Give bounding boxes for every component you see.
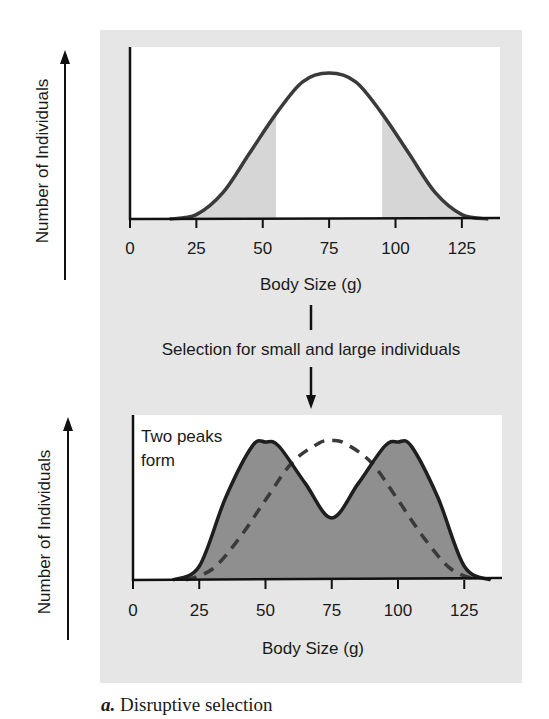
figure-caption: a. Disruptive selection: [101, 694, 273, 715]
x-tick-label: 25: [190, 601, 209, 620]
top-y-axis-indicator: Number of Individuals: [33, 50, 70, 280]
x-tick-label: 25: [187, 239, 206, 258]
x-tick-label: 125: [450, 601, 478, 620]
disruptive-selection-figure: 0255075100125 Body Size (g) Number of In…: [0, 0, 549, 719]
x-tick-label: 75: [320, 239, 339, 258]
x-tick-label: 100: [381, 239, 409, 258]
x-tick-label: 0: [128, 601, 137, 620]
x-tick-label: 125: [448, 239, 476, 258]
top-y-axis-label: Number of Individuals: [33, 79, 52, 243]
x-tick-label: 100: [384, 601, 412, 620]
x-tick-label: 50: [256, 601, 275, 620]
top-y-arrow-head-icon: [60, 50, 70, 64]
bottom-x-axis-label: Body Size (g): [262, 639, 364, 658]
top-x-axis: [129, 218, 500, 219]
x-tick-label: 0: [125, 239, 134, 258]
bottom-y-axis-label: Number of Individuals: [35, 450, 54, 614]
caption-letter: a.: [101, 694, 115, 715]
two-peaks-annotation-line1: Two peaks: [141, 427, 222, 446]
x-tick-label: 50: [253, 239, 272, 258]
bottom-y-arrow-head-icon: [63, 417, 73, 431]
x-tick-label: 75: [322, 601, 341, 620]
top-x-axis-label: Body Size (g): [260, 275, 362, 294]
caption-title: Disruptive selection: [115, 694, 273, 715]
two-peaks-annotation-line2: form: [141, 451, 175, 470]
bottom-y-axis-indicator: Number of Individuals: [35, 417, 73, 640]
selection-label: Selection for small and large individual…: [162, 340, 461, 359]
